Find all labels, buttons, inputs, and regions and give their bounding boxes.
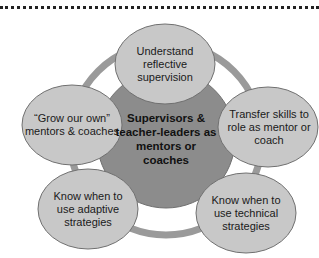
node-left-label: “Grow our own” mentors & coaches — [24, 104, 120, 146]
node-bottom-left-label: Know when to use adaptive strategies — [48, 184, 128, 234]
node-bottom-right-label: Know when to use technical strategies — [206, 188, 286, 238]
node-right-label: Transfer skills to role as mentor or coa… — [226, 104, 312, 150]
node-top-label: Understand reflective supervision — [125, 38, 205, 90]
center-label: Supervisors & teacher-leaders as mentors… — [112, 105, 220, 173]
